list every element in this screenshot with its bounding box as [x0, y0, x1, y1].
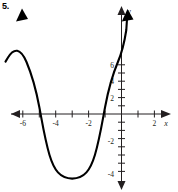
y-tick-label-6: 6 — [110, 61, 114, 70]
problem-number: 5. — [2, 0, 9, 12]
y-tick-label-2: 2 — [110, 94, 114, 103]
curve-left-arrow-icon — [16, 9, 28, 22]
x-tick-label-2: 2 — [153, 119, 157, 128]
x-tick-label-minus4: -4 — [53, 119, 59, 128]
graph-figure: 5. -6 -4 -2 2 x — [0, 0, 178, 192]
x-axis-left-arrow-icon — [11, 110, 20, 118]
y-axis: 6 4 2 -2 -4 y — [108, 6, 131, 190]
coordinate-plane: -6 -4 -2 2 x — [0, 0, 178, 192]
x-axis-right-arrow-icon — [161, 110, 171, 118]
x-tick-label-minus6: -6 — [20, 119, 26, 128]
y-axis-down-arrow-icon — [118, 181, 126, 190]
parabola-curve — [6, 9, 134, 179]
y-tick-label-minus2: -2 — [108, 137, 114, 146]
y-axis-up-arrow-icon — [118, 6, 126, 15]
x-axis-name: x — [163, 119, 168, 128]
x-axis: -6 -4 -2 2 x — [11, 110, 171, 128]
y-tick-label-minus4: -4 — [108, 170, 114, 179]
x-tick-label-minus2: -2 — [85, 119, 91, 128]
